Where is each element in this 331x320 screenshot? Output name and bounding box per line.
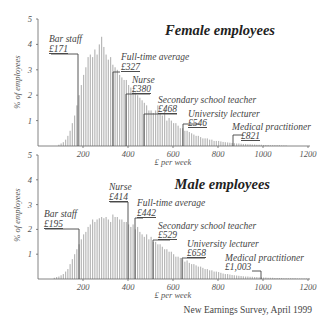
annotation-label: Nurse — [108, 182, 132, 192]
histogram-bar — [139, 98, 140, 146]
histogram-bar — [85, 232, 86, 279]
male-chart-title: Male employees — [174, 176, 271, 192]
x-tick-label: 200 — [77, 149, 91, 159]
histogram-bar — [139, 232, 140, 279]
histogram-bar — [144, 237, 145, 279]
histogram-bar — [166, 249, 167, 279]
histogram-bar — [216, 272, 217, 279]
histogram-bar — [148, 110, 149, 146]
histogram-bar — [117, 70, 118, 146]
histogram-bar — [151, 237, 152, 279]
histogram-bar — [126, 222, 127, 279]
histogram-bar — [74, 254, 75, 279]
histogram-bar — [193, 135, 194, 146]
female-chart-title: Female employees — [164, 22, 275, 38]
y-tick-label: 4 — [28, 175, 33, 185]
earnings-distribution-figure: 5 4 3 2 1 % of employees 200 400 600 800… — [0, 0, 331, 320]
histogram-bar — [223, 274, 224, 279]
histogram-bar — [200, 267, 201, 279]
histogram-bar — [205, 138, 206, 146]
histogram-bar — [178, 257, 179, 279]
histogram-bar — [189, 132, 190, 146]
histogram-bar — [173, 254, 174, 279]
histogram-bar — [90, 224, 91, 279]
histogram-bar — [81, 239, 82, 279]
histogram-bar — [103, 218, 104, 279]
male-y-ticks: 5 4 3 2 1 — [27, 150, 38, 259]
histogram-bar — [178, 126, 179, 146]
histogram-bar — [74, 116, 75, 146]
histogram-bar — [202, 138, 203, 146]
histogram-bar — [207, 269, 208, 279]
annotation-value: £546 — [188, 118, 207, 128]
histogram-bar — [65, 140, 66, 146]
histogram-bar — [115, 67, 116, 146]
histogram-bar — [243, 276, 244, 279]
annotation-value: £327 — [121, 62, 141, 72]
histogram-bar — [94, 49, 95, 146]
histogram-bar — [142, 100, 143, 146]
histogram-bar — [216, 141, 217, 146]
histogram-bar — [88, 227, 89, 279]
x-tick-label: 800 — [212, 282, 226, 292]
histogram-bar — [133, 224, 134, 279]
y-tick-label: 2 — [28, 90, 33, 100]
x-tick-label: 400 — [122, 149, 136, 159]
histogram-bar — [124, 222, 125, 279]
histogram-bar — [164, 249, 165, 279]
histogram-bar — [61, 275, 62, 279]
histogram-bar — [85, 67, 86, 146]
histogram-bar — [133, 90, 134, 146]
histogram-bar — [146, 105, 147, 146]
histogram-bar — [121, 77, 122, 146]
histogram-bar — [211, 270, 212, 279]
y-tick-label: 5 — [28, 14, 32, 24]
female-y-ticks: 5 4 3 2 1 — [27, 14, 38, 126]
histogram-bar — [227, 142, 228, 146]
histogram-bar — [175, 257, 176, 279]
histogram-bar — [81, 85, 82, 146]
histogram-bar — [175, 123, 176, 146]
histogram-bar — [234, 143, 235, 146]
histogram-bar — [108, 60, 109, 146]
histogram-bar — [234, 275, 235, 279]
y-tick-label: 1 — [28, 116, 32, 126]
annotation-value: £442 — [137, 208, 156, 218]
histogram-bar — [162, 116, 163, 146]
annotation-value: £171 — [49, 44, 68, 54]
histogram-bar — [214, 141, 215, 146]
annotation-value: £380 — [132, 84, 151, 94]
y-tick-label: 1 — [28, 249, 32, 259]
histogram-bar — [209, 140, 210, 146]
histogram-bar — [119, 219, 120, 279]
histogram-bar — [171, 252, 172, 279]
histogram-bar — [90, 55, 91, 146]
annotation-label: Bar staff — [44, 209, 78, 219]
histogram-bar — [202, 268, 203, 279]
histogram-bar — [142, 234, 143, 279]
histogram-bar — [101, 217, 102, 279]
histogram-bar — [106, 217, 107, 279]
female-chart: 5 4 3 2 1 % of employees 200 400 600 800… — [12, 14, 317, 167]
histogram-bar — [92, 219, 93, 279]
histogram-bar — [76, 105, 77, 146]
histogram-bar — [171, 121, 172, 146]
histogram-bar — [191, 133, 192, 146]
annotation-value: £414 — [109, 192, 128, 202]
histogram-bar — [137, 95, 138, 146]
histogram-bar — [83, 75, 84, 146]
histogram-bar — [198, 136, 199, 146]
histogram-bar — [97, 55, 98, 146]
histogram-bar — [110, 57, 111, 146]
histogram-bar — [65, 272, 66, 279]
histogram-bar — [67, 136, 68, 146]
male-chart: 5 4 3 2 1 % of employees 200 400 600 800… — [12, 150, 317, 300]
male-x-ticks: 200 400 600 800 1000 1200 — [77, 279, 318, 292]
x-tick-label: 400 — [122, 282, 136, 292]
histogram-bar — [214, 272, 215, 279]
histogram-bar — [99, 44, 100, 146]
annotation-label: Bar staff — [49, 34, 83, 44]
histogram-bar — [155, 110, 156, 146]
histogram-bar — [187, 260, 188, 279]
histogram-bar — [207, 138, 208, 146]
